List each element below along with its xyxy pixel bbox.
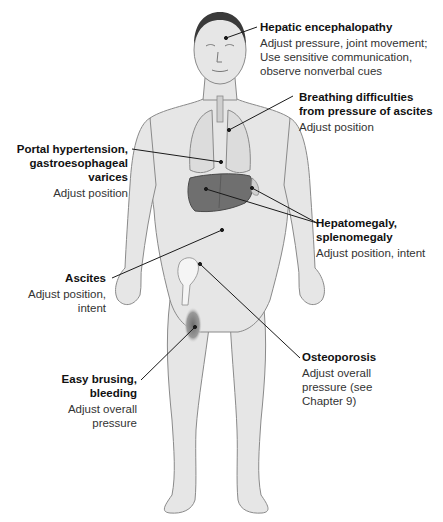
callout-desc-line: Use sensitive communication, — [260, 50, 443, 64]
callout-title: Portal hypertension, — [0, 142, 128, 156]
callout-desc-line: Adjust position, — [0, 287, 106, 301]
callout-desc-line: observe nonverbal cues — [260, 64, 443, 78]
callout-desc-line: pressure (see — [302, 380, 443, 394]
callout-title: Easy brusing, — [0, 372, 137, 386]
callout-desc-line: intent — [0, 301, 106, 315]
callout-title: Osteoporosis — [302, 350, 443, 364]
callout-title: Breathing difficulties — [299, 90, 443, 104]
callout-ascites: Ascites Adjust position, intent — [0, 271, 106, 315]
callout-osteoporosis: Osteoporosis Adjust overall pressure (se… — [302, 350, 443, 408]
callout-desc-line: Adjust pressure, joint movement; — [260, 36, 443, 50]
callout-title: Ascites — [0, 271, 106, 285]
body — [116, 16, 325, 513]
callout-title: bleeding — [0, 386, 137, 400]
callout-desc-line: pressure — [0, 416, 137, 430]
right-arm — [284, 118, 324, 305]
callout-title: Hepatic encephalopathy — [260, 20, 443, 34]
callout-hepatomegaly: Hepatomegaly, splenomegaly Adjust positi… — [316, 216, 443, 260]
callout-desc-line: Chapter 9) — [302, 394, 443, 408]
callout-desc-line: Adjust overall — [0, 402, 137, 416]
human-figure-illustration — [0, 0, 443, 522]
bruise — [184, 307, 202, 343]
callout-desc-line: Adjust position — [0, 186, 128, 200]
callout-easy-bruising: Easy brusing, bleeding Adjust overall pr… — [0, 372, 137, 430]
callout-title: Hepatomegaly, — [316, 216, 443, 230]
callout-desc-line: Adjust overall — [302, 366, 443, 380]
callout-title: gastroesophageal — [0, 156, 128, 170]
callout-title: from pressure of ascites — [299, 104, 443, 118]
callout-desc-line: Adjust position — [299, 120, 443, 134]
callout-desc-line: Adjust position, intent — [316, 246, 443, 260]
callout-breathing-difficulties: Breathing difficulties from pressure of … — [299, 90, 443, 134]
trachea — [217, 96, 223, 122]
torso — [148, 98, 293, 332]
callout-title: splenomegaly — [316, 230, 443, 244]
callout-title: varices — [0, 170, 128, 184]
callout-hepatic-encephalopathy: Hepatic encephalopathy Adjust pressure, … — [260, 20, 443, 78]
callout-portal-hypertension: Portal hypertension, gastroesophageal va… — [0, 142, 128, 200]
